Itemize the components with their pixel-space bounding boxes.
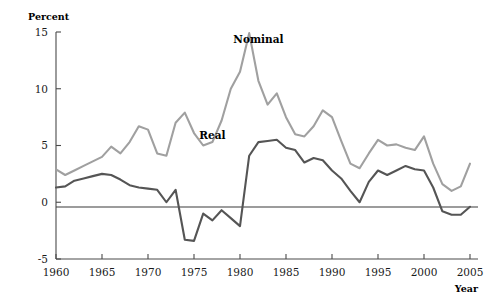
x-tick-label: 1990 <box>319 266 346 278</box>
y-tick-label: 5 <box>41 139 48 151</box>
x-tick-label: 1985 <box>273 266 300 278</box>
y-tick-label: -5 <box>38 253 48 265</box>
y-axis-ticks: -5051015 <box>35 26 61 265</box>
x-tick-label: 1975 <box>181 266 208 278</box>
chart-canvas: Percent -5051015 19601965197019751980198… <box>0 0 501 305</box>
x-tick-label: 1965 <box>89 266 116 278</box>
series-label-group: NominalReal <box>199 33 283 140</box>
y-tick-label: 15 <box>35 26 48 38</box>
series-label-nominal: Nominal <box>233 33 283 45</box>
x-tick-label: 1995 <box>365 266 392 278</box>
x-axis-ticks: 1960196519701975198019851990199520002005 <box>43 254 484 278</box>
x-tick-label: 1970 <box>135 266 162 278</box>
x-tick-label: 2005 <box>457 266 484 278</box>
interest-rate-line-chart: Percent -5051015 19601965197019751980198… <box>0 0 501 305</box>
x-tick-label: 1960 <box>43 266 70 278</box>
series-line-real <box>56 140 470 241</box>
data-series-group <box>56 33 470 241</box>
x-tick-label: 2000 <box>411 266 438 278</box>
series-label-real: Real <box>199 129 225 141</box>
x-tick-label: 1980 <box>227 266 254 278</box>
y-tick-label: 10 <box>35 83 48 95</box>
y-tick-label: 0 <box>41 196 48 208</box>
y-axis-title: Percent <box>28 11 70 22</box>
x-axis-title: Year <box>454 283 479 294</box>
